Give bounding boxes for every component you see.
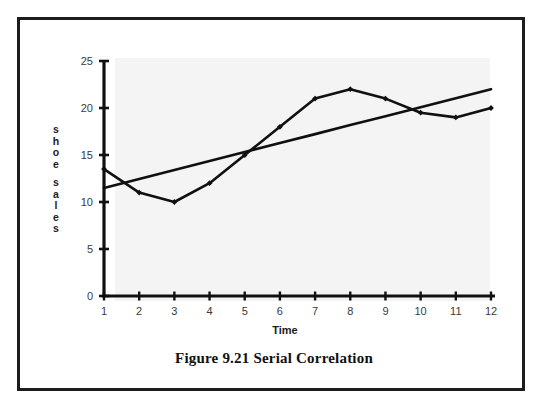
figure-caption: Figure 9.21 Serial Correlation bbox=[20, 350, 528, 367]
y-axis: 0510152025 bbox=[81, 55, 109, 302]
x-axis-tick-label: 5 bbox=[242, 305, 248, 317]
x-axis-tick-label: 7 bbox=[312, 305, 318, 317]
y-axis-title-letter: s bbox=[48, 124, 64, 136]
chart-svg: 0510152025 123456789101112 bbox=[20, 20, 528, 394]
data-point-marker bbox=[453, 115, 459, 121]
x-axis-tick-label: 12 bbox=[485, 305, 497, 317]
y-axis-title-letter: l bbox=[48, 200, 64, 212]
y-axis-tick-label: 25 bbox=[81, 55, 93, 67]
figure-frame: of the regression and theresiduals plott… bbox=[17, 17, 525, 391]
y-axis-tick-label: 15 bbox=[81, 149, 93, 161]
x-axis-tick-label: 2 bbox=[136, 305, 142, 317]
x-axis-tick-label: 6 bbox=[277, 305, 283, 317]
x-axis-tick-label: 10 bbox=[415, 305, 427, 317]
y-axis-tick-label: 20 bbox=[81, 102, 93, 114]
y-axis-tick-label: 0 bbox=[87, 290, 93, 302]
data-point-marker bbox=[488, 105, 494, 111]
y-axis-title: shoesales bbox=[48, 124, 64, 235]
x-axis-tick-label: 8 bbox=[347, 305, 353, 317]
data-point-marker bbox=[347, 86, 353, 92]
data-series-line bbox=[104, 89, 491, 188]
x-axis: 123456789101112 bbox=[101, 292, 497, 318]
chart-plot-area: 0510152025 123456789101112 bbox=[20, 20, 528, 394]
data-series-group bbox=[101, 86, 494, 205]
x-axis-tick-label: 3 bbox=[171, 305, 177, 317]
x-axis-tick-label: 11 bbox=[450, 305, 461, 317]
y-axis-title-letter: s bbox=[48, 177, 64, 189]
x-axis-title-text: Time bbox=[272, 324, 297, 336]
x-axis-title: Time bbox=[20, 324, 528, 336]
y-axis-title-letter: o bbox=[48, 147, 64, 159]
y-axis-tick-label: 10 bbox=[81, 196, 93, 208]
y-axis-tick-label: 5 bbox=[87, 243, 93, 255]
y-axis-title-letter: s bbox=[48, 223, 64, 235]
y-axis-title-letter: e bbox=[48, 159, 64, 171]
x-axis-tick-label: 9 bbox=[382, 305, 388, 317]
x-axis-tick-label: 4 bbox=[206, 305, 212, 317]
data-series-line bbox=[104, 89, 491, 202]
x-axis-tick-label: 1 bbox=[101, 305, 107, 317]
